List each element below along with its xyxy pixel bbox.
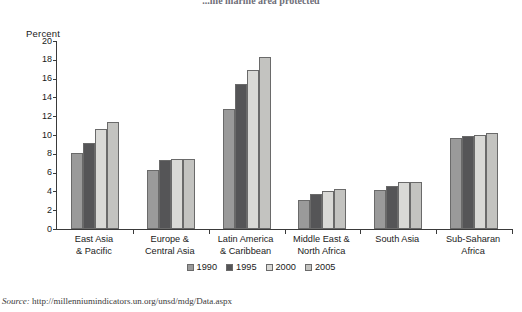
y-axis-tick-label: 6	[30, 168, 52, 177]
chart-legend: 1990199520002005	[0, 262, 522, 272]
bar-group	[209, 41, 285, 229]
category-label-line: North Africa	[274, 246, 370, 258]
legend-swatch	[305, 264, 312, 271]
y-axis-tick-label: 10	[30, 131, 52, 140]
legend-item: 2000	[266, 262, 296, 272]
y-axis-tick-label: 2	[30, 206, 52, 215]
y-axis-tick-label: 12	[30, 112, 52, 121]
bar-1995	[462, 136, 474, 229]
bar-1995	[83, 143, 95, 229]
plot-area	[56, 41, 512, 230]
y-axis-tick	[53, 229, 57, 230]
bar-2000	[398, 182, 410, 229]
bar-2000	[171, 159, 183, 230]
bar-1995	[159, 160, 171, 229]
bar-1990	[374, 190, 386, 229]
bar-1990	[71, 153, 83, 229]
bar-1990	[298, 200, 310, 229]
y-axis-tick-label: 14	[30, 93, 52, 102]
source-label: Source:	[2, 296, 30, 306]
bar-2000	[322, 191, 334, 229]
bar-2005	[183, 159, 195, 230]
bar-group	[57, 41, 133, 229]
chart-title-clipped: ...ine marine area protected	[0, 0, 522, 7]
source-note: Source: http://millenniumindicators.un.o…	[2, 296, 232, 306]
bar-2000	[95, 129, 107, 229]
legend-swatch	[187, 264, 194, 271]
category-label-line: Africa	[425, 246, 521, 258]
legend-label: 1995	[236, 262, 256, 272]
bar-group	[436, 41, 512, 229]
bar-group	[360, 41, 436, 229]
category-label-line: Sub-Saharan	[425, 234, 521, 246]
y-axis-tick-label: 4	[30, 187, 52, 196]
category-label: Sub-SaharanAfrica	[425, 234, 521, 257]
bar-1990	[450, 138, 462, 229]
bar-2005	[334, 189, 346, 229]
bar-2000	[474, 135, 486, 229]
legend-item: 2005	[305, 262, 335, 272]
legend-label: 2000	[276, 262, 296, 272]
bar-2005	[259, 57, 271, 229]
legend-item: 1995	[226, 262, 256, 272]
y-axis-tick-label: 8	[30, 149, 52, 158]
bar-1990	[223, 109, 235, 229]
legend-swatch	[266, 264, 273, 271]
legend-item: 1990	[187, 262, 217, 272]
y-axis-tick-label: 18	[30, 55, 52, 64]
bar-2000	[247, 70, 259, 229]
bar-1995	[310, 194, 322, 229]
y-axis-tick-label: 0	[30, 225, 52, 234]
bar-1990	[147, 170, 159, 229]
bar-group	[285, 41, 361, 229]
bar-1995	[235, 84, 247, 229]
bar-group	[133, 41, 209, 229]
y-axis-labels: 02468101214161820	[26, 41, 52, 229]
source-url: http://millenniumindicators.un.org/unsd/…	[32, 296, 232, 306]
bar-2005	[410, 182, 422, 229]
legend-label: 1990	[197, 262, 217, 272]
bar-1995	[386, 186, 398, 229]
legend-swatch	[226, 264, 233, 271]
legend-label: 2005	[315, 262, 335, 272]
bar-2005	[107, 122, 119, 229]
y-axis-tick-label: 20	[30, 37, 52, 46]
bar-2005	[486, 133, 498, 229]
y-axis-tick-label: 16	[30, 74, 52, 83]
